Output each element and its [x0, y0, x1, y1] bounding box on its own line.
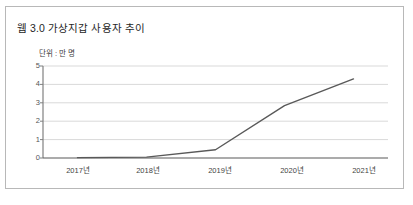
chart-figure: 웹 3.0 가상지갑 사용자 추이 단위 : 만 명 5 4 3 2 1 0 2… [0, 0, 413, 205]
data-line-series-0 [78, 79, 354, 158]
plot-area [0, 0, 413, 205]
gridlines [43, 66, 388, 140]
